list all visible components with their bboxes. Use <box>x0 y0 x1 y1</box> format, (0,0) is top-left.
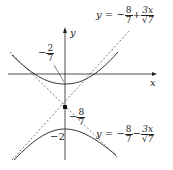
y-axis-arrow <box>63 27 67 33</box>
center-point <box>63 105 67 109</box>
asymptote-upper-label: y = −87+3x√7 <box>96 6 154 25</box>
y-axis-label: y <box>70 28 76 38</box>
x-axis-label: x <box>150 78 156 88</box>
center-label: −87 <box>69 108 85 127</box>
leader-line <box>54 65 64 82</box>
x-axis-arrow <box>152 72 157 76</box>
asymptote-lower-label: y = −87−3x√7 <box>96 125 154 144</box>
upper-vertex-label: −27 <box>38 44 54 63</box>
lower-vertex-label: −2 <box>50 132 65 142</box>
hyperbola-diagram <box>0 0 173 170</box>
